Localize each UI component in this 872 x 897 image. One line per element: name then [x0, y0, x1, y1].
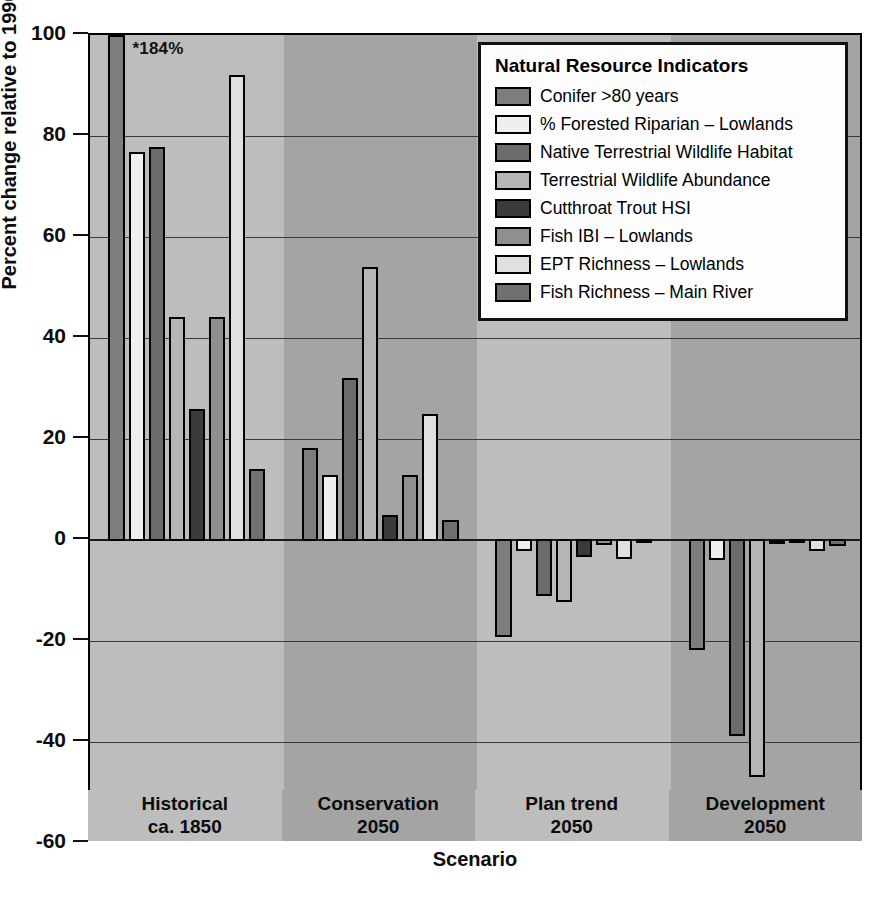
legend-swatch-conifer	[495, 87, 531, 106]
bar-group	[284, 35, 478, 839]
legend-swatch-native-habitat	[495, 143, 531, 162]
legend-item: Cutthroat Trout HSI	[495, 194, 833, 222]
y-tick-label: 0	[4, 527, 66, 548]
bar	[422, 414, 438, 541]
value-annotation: *184%	[133, 39, 184, 59]
category-label: Plan trend2050	[475, 790, 669, 841]
legend-swatch-ept-richness	[495, 255, 531, 274]
bar	[576, 539, 592, 557]
y-axis-title: Percent change relative to 1990	[0, 0, 21, 300]
x-axis-title: Scenario	[88, 848, 862, 871]
bar	[149, 147, 165, 541]
legend-item-label: Fish Richness – Main River	[540, 282, 753, 303]
bar	[129, 152, 145, 541]
bar	[442, 520, 458, 541]
chart-figure: Percent change relative to 1990 10080604…	[0, 0, 872, 897]
category-label-line: 2050	[744, 816, 786, 838]
legend-item: Fish Richness – Main River	[495, 278, 833, 306]
legend-item-label: Native Terrestrial Wildlife Habitat	[540, 142, 793, 163]
y-tick-mark	[73, 840, 88, 842]
legend-item-label: Fish IBI – Lowlands	[540, 226, 693, 247]
y-tick-mark	[73, 32, 88, 34]
bar	[495, 539, 511, 637]
legend-title: Natural Resource Indicators	[495, 55, 833, 77]
category-axis-strip: Historicalca. 1850Conservation2050Plan t…	[88, 790, 862, 841]
legend-swatch-fish-ibi	[495, 227, 531, 246]
legend-swatch-fish-richness	[495, 283, 531, 302]
bar	[829, 539, 845, 546]
legend-item: Fish IBI – Lowlands	[495, 222, 833, 250]
category-label-line: Conservation	[318, 793, 439, 815]
category-label-line: ca. 1850	[148, 816, 222, 838]
bar	[342, 378, 358, 541]
legend-item: Native Terrestrial Wildlife Habitat	[495, 138, 833, 166]
y-tick-mark	[73, 739, 88, 741]
bar	[636, 539, 652, 543]
legend-item: EPT Richness – Lowlands	[495, 250, 833, 278]
category-label-line: Plan trend	[525, 793, 618, 815]
bar	[536, 539, 552, 596]
y-tick-mark	[73, 335, 88, 337]
legend-items: Conifer >80 years% Forested Riparian – L…	[495, 82, 833, 306]
bar	[229, 75, 245, 541]
legend-swatch-cutthroat-trout	[495, 199, 531, 218]
bar	[789, 539, 805, 543]
bar	[189, 409, 205, 541]
y-tick-label: -20	[4, 628, 66, 649]
legend-item-label: EPT Richness – Lowlands	[540, 254, 744, 275]
bar	[249, 469, 265, 541]
y-tick-label: 40	[4, 325, 66, 346]
bar	[209, 317, 225, 541]
category-label: Historicalca. 1850	[88, 790, 282, 841]
bar	[809, 539, 825, 551]
bar	[769, 540, 785, 544]
legend-item-label: Cutthroat Trout HSI	[540, 198, 691, 219]
legend-swatch-wildlife-abundance	[495, 171, 531, 190]
legend-item-label: Conifer >80 years	[540, 86, 679, 107]
bar	[749, 539, 765, 777]
bar	[169, 317, 185, 541]
y-tick-label: -40	[4, 729, 66, 750]
legend-item: Conifer >80 years	[495, 82, 833, 110]
category-label: Conservation2050	[282, 790, 476, 841]
bar	[689, 539, 705, 650]
y-tick-mark	[73, 436, 88, 438]
bar	[108, 35, 124, 541]
category-label-line: 2050	[357, 816, 399, 838]
legend-item-label: Terrestrial Wildlife Abundance	[540, 170, 771, 191]
y-tick-mark	[73, 133, 88, 135]
y-tick-mark	[73, 234, 88, 236]
category-label-line: Development	[706, 793, 825, 815]
bar	[616, 539, 632, 559]
legend-item-label: % Forested Riparian – Lowlands	[540, 114, 793, 135]
bar-group	[90, 35, 284, 839]
legend-item: % Forested Riparian – Lowlands	[495, 110, 833, 138]
y-tick-label: -60	[4, 830, 66, 851]
legend-swatch-forested-riparian	[495, 115, 531, 134]
bar	[596, 539, 612, 545]
bar	[382, 515, 398, 541]
y-tick-label: 60	[4, 224, 66, 245]
y-tick-mark	[73, 537, 88, 539]
y-tick-label: 20	[4, 426, 66, 447]
bar	[322, 475, 338, 541]
bar	[362, 267, 378, 541]
bar	[402, 475, 418, 541]
category-label-line: Historical	[141, 793, 228, 815]
bar	[516, 539, 532, 551]
chart-legend: Natural Resource Indicators Conifer >80 …	[478, 42, 848, 321]
bar	[302, 448, 318, 541]
y-tick-label: 80	[4, 123, 66, 144]
y-tick-label: 100	[4, 22, 66, 43]
category-label: Development2050	[669, 790, 863, 841]
category-label-line: 2050	[551, 816, 593, 838]
bar	[556, 539, 572, 602]
legend-item: Terrestrial Wildlife Abundance	[495, 166, 833, 194]
y-tick-mark	[73, 638, 88, 640]
bar	[709, 539, 725, 560]
bar	[729, 539, 745, 736]
